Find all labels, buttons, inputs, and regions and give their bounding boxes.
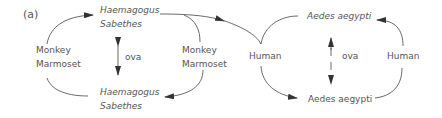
arrow-right-human-to-top-aedes <box>377 20 403 46</box>
curve-top-vector-to-right-host <box>184 15 200 42</box>
curve-bottom-vector-to-left-host <box>47 78 88 96</box>
sylvatic-top-vector-line2: Sabethes <box>100 19 142 30</box>
sylvatic-left-host-line2: Marmoset <box>36 59 81 70</box>
sylvatic-ova-label: ova <box>125 52 141 63</box>
urban-ova-label: ova <box>342 51 358 62</box>
curve-bottom-aedes-to-right-human <box>375 68 402 98</box>
panel-label: (a) <box>23 9 38 20</box>
curve-arrow-to-human <box>222 20 261 44</box>
arrow-human-to-bottom-aedes <box>261 66 297 98</box>
arrow-right-host-to-bottom-vector <box>165 70 203 97</box>
urban-right-host: Human <box>387 51 419 62</box>
sylvatic-bottom-vector-line2: Sabethes <box>100 101 142 112</box>
urban-left-host: Human <box>249 51 281 62</box>
sylvatic-top-vector-line1: Haemagogus <box>100 5 159 16</box>
curve-human-to-top-aedes <box>261 16 298 44</box>
urban-top-vector: Aedes aegypti <box>307 11 371 22</box>
sylvatic-right-host-line1: Monkey <box>182 45 217 56</box>
yellow-fever-transmission-diagram: (a) Haemagogus Sabethes Monkey Marmoset … <box>0 0 442 118</box>
sylvatic-left-host-line1: Monkey <box>36 45 71 56</box>
urban-bottom-vector: Aedes aegypti <box>308 94 372 105</box>
arrow-left-host-to-top-vector <box>47 15 93 44</box>
sylvatic-bottom-vector-line1: Haemagogus <box>100 87 159 98</box>
sylvatic-right-host-line2: Marmoset <box>182 59 227 70</box>
